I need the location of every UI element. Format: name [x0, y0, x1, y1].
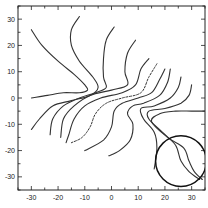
- contour-5: [66, 59, 149, 143]
- contour-lines: [31, 17, 205, 180]
- contour-3: [50, 27, 114, 135]
- contour-8: [109, 69, 171, 156]
- y-tick-label: 0: [11, 95, 15, 102]
- x-tick-label: 20: [161, 194, 169, 201]
- x-axis: -30-20-100102030: [18, 6, 205, 201]
- x-tick-label: -30: [26, 194, 36, 201]
- y-tick-label: -20: [5, 147, 15, 154]
- y-tick-label: -10: [5, 121, 15, 128]
- contour-chart: -30-20-100102030 3020100-10-20-30: [0, 0, 208, 208]
- plot-frame: [18, 6, 205, 190]
- y-tick-label: 30: [7, 16, 15, 23]
- x-tick-label: 0: [110, 194, 114, 201]
- y-tick-label: 10: [7, 68, 15, 75]
- x-tick-label: -20: [53, 194, 63, 201]
- x-tick-label: 10: [134, 194, 142, 201]
- y-tick-label: -30: [5, 173, 15, 180]
- x-tick-label: 30: [188, 194, 196, 201]
- contour-11: [151, 111, 205, 180]
- contour-9: [140, 77, 181, 169]
- x-tick-label: -10: [80, 194, 90, 201]
- y-tick-label: 20: [7, 42, 15, 49]
- contour-1: [31, 30, 87, 98]
- plot-border: [18, 6, 205, 190]
- contour-2: [31, 17, 98, 130]
- y-axis: 3020100-10-20-30: [5, 6, 205, 190]
